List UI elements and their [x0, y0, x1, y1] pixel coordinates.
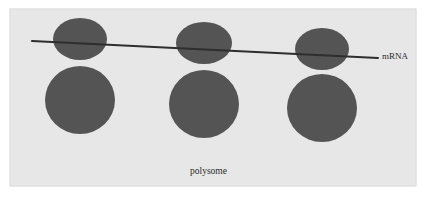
polysome-diagram-canvas: mRNA polysome — [0, 0, 428, 197]
mrna-label: mRNA — [382, 51, 409, 61]
ribosome-1 — [45, 18, 115, 134]
ribosome-2-large-subunit — [169, 70, 239, 138]
ribosome-3-small-subunit — [295, 28, 349, 70]
figure-root: mRNA polysome — [0, 0, 428, 197]
ribosome-2-small-subunit — [176, 22, 232, 64]
ribosome-1-large-subunit — [45, 66, 115, 134]
polysome-caption: polysome — [190, 166, 227, 176]
ribosome-3-large-subunit — [287, 74, 357, 142]
ribosome-3 — [287, 28, 357, 142]
ribosome-2 — [169, 22, 239, 138]
ribosome-1-small-subunit — [53, 18, 107, 60]
